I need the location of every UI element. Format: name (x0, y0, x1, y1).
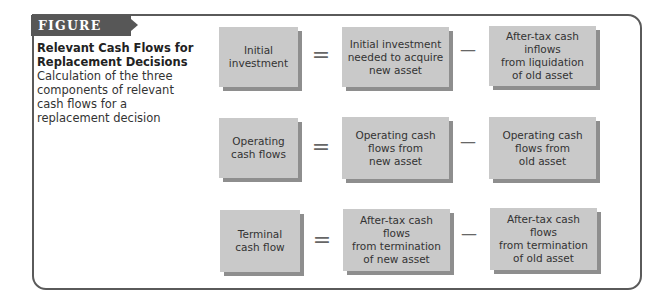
box-line: needed to acquire (348, 51, 444, 64)
box-line: Terminal (235, 228, 284, 241)
box-line: Operating cash (355, 129, 435, 142)
figure-caption: Relevant Cash Flows for Replacement Deci… (37, 41, 197, 125)
new-asset-investment-box: Initial investmentneeded to acquirenew a… (342, 27, 449, 87)
terminal-cash-flow-box: Terminalcash flow (220, 210, 300, 272)
equals-sign: = (312, 227, 332, 252)
box-line: flows from (355, 142, 435, 155)
figure-description: Calculation of the three components of r… (37, 69, 197, 125)
minus-sign: — (459, 224, 479, 243)
box-line: old asset (502, 155, 582, 168)
new-asset-operating-box: Operating cashflows fromnew asset (342, 117, 449, 179)
box-line: After-tax cash inflows (493, 30, 592, 56)
box-line: of new asset (347, 253, 446, 266)
box-line: Initial (229, 44, 288, 57)
new-asset-termination-box: After-tax cash flowsfrom terminationof n… (343, 209, 450, 271)
operating-cash-flows-box: Operatingcash flows (219, 118, 298, 178)
title-line-2: Replacement Decisions (37, 55, 197, 69)
figure-title: Relevant Cash Flows for Replacement Deci… (37, 41, 197, 69)
initial-investment-box: Initialinvestment (219, 27, 298, 87)
old-asset-termination-box: After-tax cash flowsfrom terminationof o… (490, 208, 597, 270)
figure-label: FIGURE 11.2 (31, 15, 131, 36)
box-line: Operating (231, 135, 286, 148)
title-line-1: Relevant Cash Flows for (37, 41, 197, 55)
box-line: flows from (502, 142, 582, 155)
box-line: of old asset (494, 252, 593, 265)
box-line: new asset (355, 155, 435, 168)
box-line: cash flows (231, 148, 286, 161)
box-line: Operating cash (502, 129, 582, 142)
box-line: from termination (494, 239, 593, 252)
box-line: from liquidation (493, 56, 592, 69)
box-line: new asset (348, 64, 444, 77)
equals-sign: = (311, 42, 331, 67)
box-line: After-tax cash flows (347, 214, 446, 240)
box-line: After-tax cash flows (494, 213, 593, 239)
equals-sign: = (311, 134, 331, 159)
old-asset-liquidation-box: After-tax cash inflowsfrom liquidationof… (489, 26, 596, 86)
box-line: from termination (347, 240, 446, 253)
minus-sign: — (458, 132, 478, 151)
old-asset-operating-box: Operating cashflows fromold asset (489, 117, 596, 179)
box-line: cash flow (235, 241, 284, 254)
box-line: Initial investment (348, 38, 444, 51)
box-line: of old asset (493, 69, 592, 82)
minus-sign: — (458, 40, 478, 59)
box-line: investment (229, 57, 288, 70)
